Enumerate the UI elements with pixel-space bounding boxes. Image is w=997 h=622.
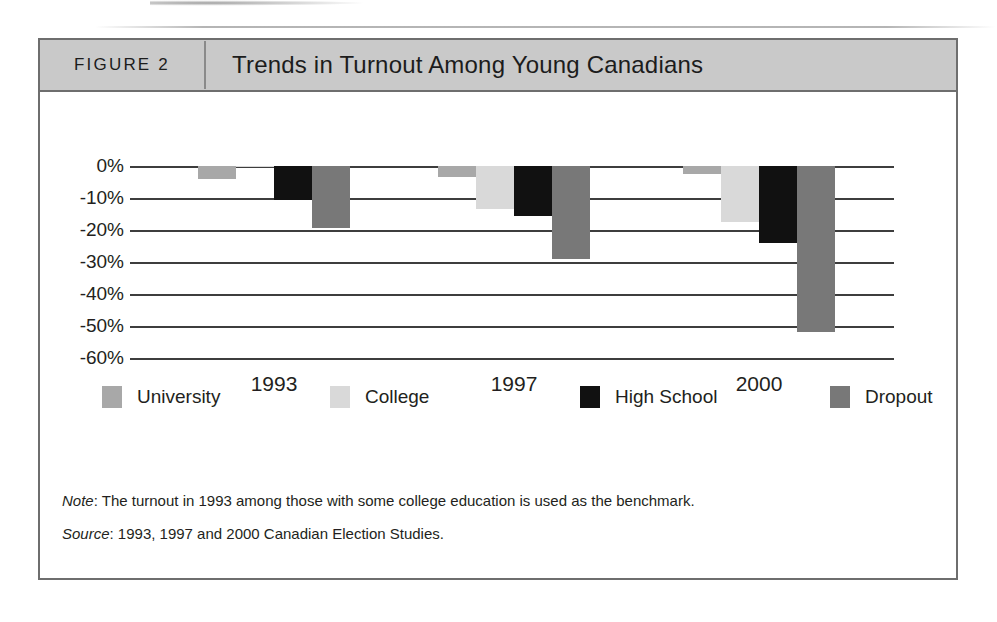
y-axis-label: -30%: [80, 251, 124, 273]
note-text: : The turnout in 1993 among those with s…: [94, 492, 695, 509]
bar-college-1993: [236, 166, 274, 167]
legend-label: University: [137, 386, 220, 408]
note-line: Note: The turnout in 1993 among those wi…: [62, 492, 922, 509]
y-axis-label: -10%: [80, 187, 124, 209]
y-axis-tick: [130, 198, 156, 200]
legend-item-high-school: High School: [580, 386, 830, 408]
bar-high-school-1993: [274, 166, 312, 200]
legend-label: College: [365, 386, 429, 408]
bar-dropout-1997: [552, 166, 590, 259]
y-axis-label: 0%: [97, 155, 124, 177]
gridline: -60%: [156, 358, 894, 360]
y-axis-label: -20%: [80, 219, 124, 241]
source-prefix: Source: [62, 525, 110, 542]
bar-dropout-2000: [797, 166, 835, 332]
y-axis-label: -40%: [80, 283, 124, 305]
bar-dropout-1993: [312, 166, 350, 228]
bar-college-2000: [721, 166, 759, 222]
bar-high-school-2000: [759, 166, 797, 243]
legend-swatch-high-school: [580, 386, 600, 408]
legend-item-college: College: [330, 386, 580, 408]
bar-college-1997: [476, 166, 514, 209]
legend-label: High School: [615, 386, 717, 408]
chart-legend: UniversityCollegeHigh SchoolDropout: [40, 386, 956, 408]
source-line: Source: 1993, 1997 and 2000 Canadian Ele…: [62, 525, 922, 542]
figure-header: FIGURE 2 Trends in Turnout Among Young C…: [40, 40, 956, 92]
y-axis-tick: [130, 166, 156, 168]
y-axis-tick: [130, 326, 156, 328]
figure-notes: Note: The turnout in 1993 among those wi…: [62, 492, 922, 558]
y-axis-tick: [130, 294, 156, 296]
y-axis-tick: [130, 262, 156, 264]
bar-group-1997: [438, 166, 590, 358]
y-axis-tick: [130, 358, 156, 360]
figure-title: Trends in Turnout Among Young Canadians: [206, 51, 703, 79]
figure-frame: FIGURE 2 Trends in Turnout Among Young C…: [38, 38, 958, 580]
figure-number-label: FIGURE 2: [40, 41, 206, 89]
y-axis-label: -60%: [80, 347, 124, 369]
source-text: : 1993, 1997 and 2000 Canadian Election …: [110, 525, 444, 542]
legend-swatch-university: [102, 386, 122, 408]
bar-chart: 0%-10%-20%-30%-40%-50%-60% 199319972000: [40, 92, 956, 422]
legend-label: Dropout: [865, 386, 933, 408]
bar-university-1993: [198, 166, 236, 179]
y-axis-label: -50%: [80, 315, 124, 337]
y-axis-tick: [130, 230, 156, 232]
scan-artifact-top: [150, 0, 380, 6]
bar-group-1993: [198, 166, 350, 358]
bars-layer: [156, 166, 894, 358]
bar-university-2000: [683, 166, 721, 174]
plot-area: 0%-10%-20%-30%-40%-50%-60% 199319972000: [156, 166, 894, 358]
scan-artifact-line: [95, 26, 995, 28]
bar-high-school-1997: [514, 166, 552, 216]
legend-swatch-dropout: [830, 386, 850, 408]
legend-swatch-college: [330, 386, 350, 408]
bar-group-2000: [683, 166, 835, 358]
legend-item-dropout: Dropout: [830, 386, 933, 408]
figure-body: 0%-10%-20%-30%-40%-50%-60% 199319972000 …: [40, 92, 956, 578]
bar-university-1997: [438, 166, 476, 177]
legend-item-university: University: [102, 386, 330, 408]
note-prefix: Note: [62, 492, 94, 509]
